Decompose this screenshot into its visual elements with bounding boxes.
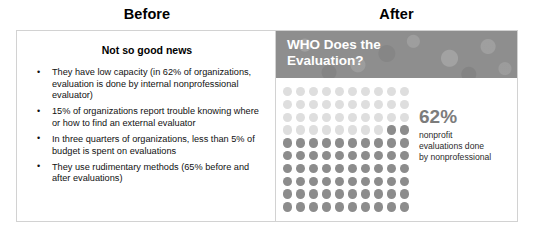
waffle-dot-filled	[361, 189, 370, 198]
waffle-dot-empty	[335, 125, 344, 134]
waffle-dot-empty	[309, 100, 318, 109]
before-panel: Not so good news They have low capacity …	[16, 30, 278, 222]
waffle-dot-empty	[296, 125, 305, 134]
after-panel-body: 62% nonprofit evaluations done by nonpro…	[276, 78, 517, 221]
waffle-dot-filled	[348, 164, 357, 173]
waffle-dot-empty	[296, 100, 305, 109]
slide-canvas: Before After Not so good news They have …	[0, 0, 541, 234]
waffle-dot-filled	[374, 177, 383, 186]
list-item: They use rudimentary methods (65% before…	[35, 162, 267, 185]
waffle-dot-empty	[387, 100, 396, 109]
waffle-dot-filled	[374, 151, 383, 160]
waffle-dot-filled	[322, 177, 331, 186]
waffle-dot-empty	[296, 113, 305, 122]
waffle-dot-empty	[348, 100, 357, 109]
waffle-dot-filled	[283, 202, 292, 211]
waffle-dot-filled	[335, 164, 344, 173]
waffle-dot-filled	[296, 177, 305, 186]
waffle-dot-empty	[309, 125, 318, 134]
list-item: 15% of organizations report trouble know…	[35, 106, 267, 129]
waffle-dot-filled	[309, 177, 318, 186]
waffle-dot-filled	[296, 202, 305, 211]
waffle-dot-filled	[322, 151, 331, 160]
waffle-dot-filled	[361, 177, 370, 186]
waffle-dot-filled	[400, 151, 409, 160]
waffle-dot-filled	[400, 164, 409, 173]
waffle-dot-filled	[387, 164, 396, 173]
waffle-dot-filled	[374, 138, 383, 147]
waffle-dot-filled	[296, 164, 305, 173]
waffle-dot-filled	[387, 189, 396, 198]
waffle-dot-empty	[374, 100, 383, 109]
waffle-dot-filled	[335, 189, 344, 198]
waffle-dot-filled	[283, 177, 292, 186]
waffle-dot-filled	[322, 189, 331, 198]
waffle-dot-empty	[322, 87, 331, 96]
waffle-dot-empty	[400, 87, 409, 96]
waffle-dot-empty	[348, 113, 357, 122]
after-column-title: After	[275, 6, 518, 22]
waffle-dot-empty	[283, 113, 292, 122]
waffle-dot-filled	[322, 138, 331, 147]
waffle-dot-filled	[400, 125, 409, 134]
waffle-dot-filled	[309, 189, 318, 198]
waffle-dot-filled	[400, 202, 409, 211]
waffle-dot-empty	[374, 125, 383, 134]
waffle-chart	[283, 87, 413, 215]
waffle-dot-filled	[309, 164, 318, 173]
after-callout: 62% nonprofit evaluations done by nonpro…	[419, 107, 513, 163]
waffle-dot-filled	[296, 151, 305, 160]
waffle-dot-empty	[335, 87, 344, 96]
waffle-dot-empty	[348, 87, 357, 96]
waffle-dot-empty	[400, 100, 409, 109]
waffle-dot-filled	[400, 189, 409, 198]
waffle-dot-filled	[387, 138, 396, 147]
waffle-dot-empty	[361, 100, 370, 109]
waffle-dot-empty	[335, 113, 344, 122]
waffle-dot-filled	[361, 151, 370, 160]
waffle-dot-filled	[283, 138, 292, 147]
waffle-dot-empty	[374, 87, 383, 96]
waffle-dot-filled	[296, 189, 305, 198]
waffle-dot-filled	[296, 138, 305, 147]
after-banner-title: WHO Does the Evaluation?	[287, 37, 381, 69]
list-item: They have low capacity (in 62% of organi…	[35, 67, 267, 102]
waffle-dot-filled	[335, 138, 344, 147]
waffle-dot-filled	[283, 189, 292, 198]
waffle-dot-empty	[309, 87, 318, 96]
list-item: In three quarters of organizations, less…	[35, 134, 267, 157]
waffle-dot-filled	[348, 202, 357, 211]
waffle-dot-filled	[361, 202, 370, 211]
waffle-dot-filled	[361, 164, 370, 173]
waffle-dot-empty	[387, 87, 396, 96]
waffle-dot-empty	[361, 125, 370, 134]
after-panel-banner: WHO Does the Evaluation?	[276, 31, 517, 78]
waffle-dot-empty	[283, 100, 292, 109]
waffle-dot-filled	[322, 202, 331, 211]
waffle-dot-empty	[296, 87, 305, 96]
waffle-dot-empty	[387, 113, 396, 122]
waffle-dot-filled	[387, 125, 396, 134]
waffle-dot-filled	[374, 202, 383, 211]
after-panel: WHO Does the Evaluation? 62% nonprofit e…	[275, 30, 518, 222]
before-panel-heading: Not so good news	[17, 44, 277, 56]
waffle-dot-filled	[322, 164, 331, 173]
waffle-dot-filled	[374, 164, 383, 173]
callout-caption: nonprofit evaluations done by nonprofess…	[419, 130, 513, 163]
waffle-dot-empty	[322, 125, 331, 134]
waffle-dot-filled	[309, 151, 318, 160]
waffle-dot-filled	[335, 151, 344, 160]
waffle-dot-filled	[387, 177, 396, 186]
waffle-dot-filled	[348, 189, 357, 198]
waffle-dot-filled	[335, 202, 344, 211]
waffle-dot-filled	[361, 138, 370, 147]
waffle-dot-empty	[309, 113, 318, 122]
waffle-dot-filled	[387, 202, 396, 211]
waffle-dot-filled	[348, 138, 357, 147]
waffle-dot-empty	[322, 100, 331, 109]
waffle-dot-filled	[309, 138, 318, 147]
waffle-dot-filled	[374, 189, 383, 198]
waffle-dot-filled	[387, 151, 396, 160]
waffle-dot-empty	[374, 113, 383, 122]
waffle-dot-filled	[283, 151, 292, 160]
